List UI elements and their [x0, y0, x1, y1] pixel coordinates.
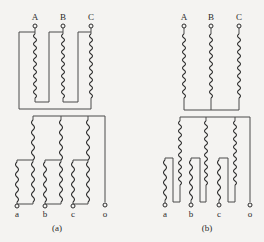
terminal-label-C: C — [236, 12, 242, 22]
terminal-a — [163, 203, 167, 207]
secondary-zigzag-winding — [16, 116, 106, 204]
terminal-label-B: B — [60, 12, 66, 22]
terminal-label-A: A — [32, 12, 39, 22]
transformer-winding-diagram: A B C — [0, 0, 264, 242]
terminal-b — [43, 204, 47, 208]
caption-a: (a) — [52, 223, 62, 233]
terminal-label-A: A — [181, 12, 188, 22]
terminal-label-c: c — [217, 209, 221, 219]
terminal-c — [217, 203, 221, 207]
terminal-label-a: a — [163, 209, 167, 219]
terminal-C — [237, 24, 241, 28]
terminal-label-c: c — [71, 209, 75, 219]
terminal-label-B: B — [208, 12, 214, 22]
terminal-b — [189, 203, 193, 207]
caption-b: (b) — [202, 223, 213, 233]
terminal-label-o: o — [103, 209, 108, 219]
terminal-label-o: o — [248, 209, 253, 219]
terminal-B — [209, 24, 213, 28]
terminal-B — [61, 24, 65, 28]
terminal-label-b: b — [189, 209, 194, 219]
terminal-a — [15, 204, 19, 208]
terminal-o — [248, 203, 252, 207]
terminal-o — [103, 203, 107, 207]
primary-delta-winding — [19, 28, 93, 109]
terminal-C — [89, 24, 93, 28]
terminal-label-b: b — [43, 209, 48, 219]
primary-star-winding — [183, 28, 241, 110]
secondary-zigzag-winding — [164, 117, 251, 203]
diagram-a: A B C — [15, 12, 108, 233]
terminal-A — [33, 24, 37, 28]
terminal-A — [182, 24, 186, 28]
diagram-b: A B C — [163, 12, 253, 233]
terminal-label-a: a — [15, 209, 19, 219]
terminal-c — [71, 204, 75, 208]
terminal-label-C: C — [88, 12, 94, 22]
